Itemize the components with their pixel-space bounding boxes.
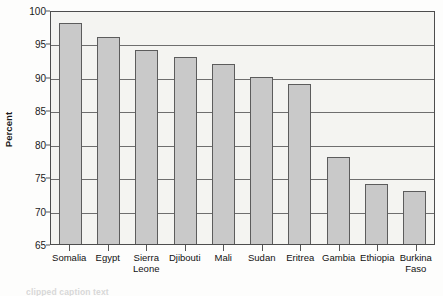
x-axis-label-line1: Ethiopia (360, 252, 394, 263)
bars-layer (51, 12, 434, 244)
figure-caption: clipped caption text (26, 287, 426, 296)
x-tick-mark (223, 245, 224, 251)
x-axis-label-line1: Burkina (400, 252, 432, 263)
x-axis-label: Ethiopia (358, 252, 397, 284)
x-axis-label: BurkinaFaso (397, 252, 436, 284)
bar (288, 84, 311, 244)
bar-slot (281, 12, 319, 244)
x-axis-label-line1: Gambia (322, 252, 355, 263)
y-tick-label: 90 (35, 72, 46, 83)
x-tick-slot (243, 245, 282, 252)
bar-slot (51, 12, 89, 244)
x-tick-mark (108, 245, 109, 251)
y-tick-label: 75 (35, 173, 46, 184)
x-axis-label: SierraLeone (127, 252, 166, 284)
x-axis-label-line1: Sudan (248, 252, 275, 263)
x-tick-slot (320, 245, 359, 252)
x-tick-mark (185, 245, 186, 251)
bar (135, 50, 158, 244)
x-tick-mark (416, 245, 417, 251)
x-tick-slot (281, 245, 320, 252)
bar (250, 77, 273, 244)
x-tick-mark (262, 245, 263, 251)
x-tick-mark (300, 245, 301, 251)
x-tick-slot (204, 245, 243, 252)
x-axis-label-line1: Mali (215, 252, 232, 263)
x-axis-label-line1: Sierra (134, 252, 159, 263)
x-axis-label-line2: Leone (128, 263, 165, 274)
x-axis-label: Mali (204, 252, 243, 284)
bar-slot (166, 12, 204, 244)
y-tick-label: 85 (35, 106, 46, 117)
bar-slot (89, 12, 127, 244)
y-tick-label: 65 (35, 240, 46, 251)
x-tick-slot (166, 245, 205, 252)
y-axis-title: Percent (0, 0, 18, 258)
bar (327, 157, 350, 244)
bar-slot (242, 12, 280, 244)
bar-slot (396, 12, 434, 244)
x-tick-slot (127, 245, 166, 252)
bar (97, 37, 120, 244)
y-axis-tick-labels: 65707580859095100 (18, 0, 50, 258)
x-tick-mark (69, 245, 70, 251)
x-axis-label: Egypt (89, 252, 128, 284)
bar-slot (319, 12, 357, 244)
x-axis-label: Gambia (320, 252, 359, 284)
y-tick-label: 95 (35, 39, 46, 50)
x-tick-mark (377, 245, 378, 251)
x-axis-label-line1: Somalia (52, 252, 86, 263)
bar (174, 57, 197, 244)
x-axis-label-line1: Egypt (96, 252, 120, 263)
bar (59, 23, 82, 244)
x-axis-label-line1: Eritrea (286, 252, 314, 263)
bar-slot (204, 12, 242, 244)
bar-slot (128, 12, 166, 244)
x-tick-slot (397, 245, 436, 252)
bar-chart-figure: Percent 65707580859095100 SomaliaEgyptSi… (0, 0, 443, 296)
bar (365, 184, 388, 244)
x-axis-category-labels: SomaliaEgyptSierraLeoneDjiboutiMaliSudan… (50, 252, 435, 284)
x-axis-label-line2: Faso (398, 263, 435, 274)
bar (212, 64, 235, 245)
y-tick-label: 70 (35, 206, 46, 217)
x-axis-label: Sudan (243, 252, 282, 284)
x-tick-slot (89, 245, 128, 252)
bar (403, 191, 426, 244)
x-axis-label: Eritrea (281, 252, 320, 284)
x-tick-mark (339, 245, 340, 251)
x-axis-label: Djibouti (166, 252, 205, 284)
x-tick-slot (358, 245, 397, 252)
y-axis-title-label: Percent (4, 111, 15, 147)
x-axis-label: Somalia (50, 252, 89, 284)
x-tick-mark (146, 245, 147, 251)
bar-slot (357, 12, 395, 244)
x-axis-tick-marks (50, 245, 435, 252)
y-tick-label: 80 (35, 139, 46, 150)
x-tick-slot (50, 245, 89, 252)
plot-area (50, 11, 435, 245)
y-tick-label: 100 (29, 6, 46, 17)
x-axis-label-line1: Djibouti (169, 252, 201, 263)
